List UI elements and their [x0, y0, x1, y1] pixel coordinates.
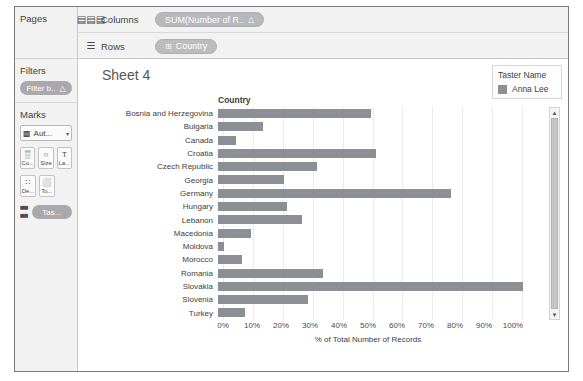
columns-pill-label: SUM(Number of R..: [165, 15, 244, 25]
left-rail: Pages Filters Filter b.. △ Marks ▩ Aut..…: [15, 7, 78, 371]
taster-name-pill-label: Tas...: [42, 208, 61, 217]
y-axis-label: Slovakia: [102, 282, 218, 291]
detail-button[interactable]: ∷ De...: [20, 175, 36, 197]
bar[interactable]: [218, 189, 451, 198]
color-button[interactable]: ▒ Co...: [20, 147, 35, 169]
legend-title: Taster Name: [498, 70, 556, 80]
scroll-up-icon[interactable]: ▲: [550, 108, 559, 117]
chart-row: Czech Republic: [102, 160, 537, 173]
tableau-window: Pages Filters Filter b.. △ Marks ▩ Aut..…: [14, 6, 569, 372]
y-axis-label: Croatia: [102, 149, 218, 158]
columns-shelf[interactable]: ▤▤▤ Columns SUM(Number of R.. △: [78, 7, 568, 33]
bar[interactable]: [218, 149, 376, 158]
label-button[interactable]: T La...: [57, 147, 72, 169]
bar-track: [218, 200, 537, 213]
columns-shelf-label: Columns: [101, 14, 155, 25]
chart-vertical-scrollbar[interactable]: ▲ ▼: [549, 107, 560, 320]
bar[interactable]: [218, 229, 251, 238]
columns-icon: ▤▤▤: [84, 15, 98, 25]
bar-rows: Bosnia and HerzegovinaBulgariaCanadaCroa…: [102, 107, 537, 320]
y-axis-label: Czech Republic: [102, 162, 218, 171]
bar-track: [218, 187, 537, 200]
marks-title: Marks: [20, 109, 72, 120]
y-axis-label: Bulgaria: [102, 122, 218, 131]
x-tick-label: 10%: [244, 321, 260, 330]
rows-shelf-label: Rows: [101, 41, 155, 52]
y-axis-label: Canada: [102, 136, 218, 145]
chart-row: Macedonia: [102, 227, 537, 240]
row-field-header: Country: [218, 95, 251, 105]
detail-dots-icon: ■■■■: [20, 204, 28, 220]
bar-track: [218, 134, 537, 147]
rows-pill[interactable]: ⊞ Country: [155, 39, 217, 54]
y-axis-label: Hungary: [102, 202, 218, 211]
y-axis-label: Morocco: [102, 255, 218, 264]
y-axis-label: Bosnia and Herzegovina: [102, 109, 218, 118]
color-legend: Taster Name Anna Lee: [492, 65, 562, 99]
filters-title: Filters: [20, 65, 72, 76]
rows-shelf[interactable]: ☰ Rows ⊞ Country: [78, 33, 568, 59]
x-tick-label: 20%: [273, 321, 289, 330]
mark-type-selector[interactable]: ▩ Aut... ▾: [20, 125, 72, 141]
filters-card: Filters Filter b.. △: [15, 59, 77, 103]
bar[interactable]: [218, 109, 371, 118]
x-tick-label: 100%: [503, 321, 523, 330]
taster-name-pill[interactable]: Tas...: [32, 205, 72, 219]
color-icon: ▒: [25, 150, 31, 159]
tooltip-button[interactable]: ⬜ To...: [39, 175, 55, 197]
bar[interactable]: [218, 242, 224, 251]
bar[interactable]: [218, 215, 302, 224]
legend-item-label: Anna Lee: [512, 84, 548, 94]
chart-row: Bulgaria: [102, 120, 537, 133]
chart-row: Morocco: [102, 253, 537, 266]
chart-row: Moldova: [102, 240, 537, 253]
chart-row: Hungary: [102, 200, 537, 213]
chart-row: Canada: [102, 134, 537, 147]
bar[interactable]: [218, 308, 245, 317]
hierarchy-icon: ⊞: [165, 42, 172, 51]
bar-track: [218, 213, 537, 226]
size-button-label: Size: [40, 160, 52, 167]
bar-track: [218, 120, 537, 133]
y-axis-label: Georgia: [102, 176, 218, 185]
x-tick-label: 40%: [331, 321, 347, 330]
chart-row: Romania: [102, 267, 537, 280]
bar[interactable]: [218, 255, 242, 264]
bar-track: [218, 147, 537, 160]
filter-pill-label: Filter b..: [26, 84, 55, 93]
mark-type-label: Aut...: [34, 129, 53, 138]
x-tick-label: 80%: [447, 321, 463, 330]
legend-swatch: [498, 85, 507, 94]
tooltip-icon: ⬜: [42, 178, 52, 187]
chart-row: Turkey: [102, 306, 537, 319]
bar-track: [218, 267, 537, 280]
y-axis-label: Lebanon: [102, 216, 218, 225]
filter-pill[interactable]: Filter b.. △: [20, 81, 72, 95]
size-button[interactable]: ○ Size: [38, 147, 53, 169]
chart-row: Lebanon: [102, 213, 537, 226]
bar[interactable]: [218, 175, 284, 184]
bar[interactable]: [218, 202, 287, 211]
legend-item[interactable]: Anna Lee: [498, 84, 556, 94]
bar[interactable]: [218, 162, 317, 171]
y-axis-label: Romania: [102, 269, 218, 278]
rows-pill-label: Country: [176, 41, 208, 51]
bar[interactable]: [218, 282, 523, 291]
bar-track: [218, 160, 537, 173]
marks-button-row-1: ▒ Co... ○ Size T La...: [20, 147, 72, 169]
scrollbar-thumb[interactable]: [551, 118, 558, 309]
bar[interactable]: [218, 295, 308, 304]
color-button-label: Co...: [21, 160, 34, 167]
bar[interactable]: [218, 122, 263, 131]
bar[interactable]: [218, 269, 323, 278]
bar[interactable]: [218, 136, 236, 145]
scroll-down-icon[interactable]: ▼: [550, 310, 559, 319]
chart-row: Georgia: [102, 173, 537, 186]
chart-row: Croatia: [102, 147, 537, 160]
x-tick-label: 30%: [302, 321, 318, 330]
shelves-area: ▤▤▤ Columns SUM(Number of R.. △ ☰ Rows ⊞…: [78, 7, 568, 59]
columns-pill[interactable]: SUM(Number of R.. △: [155, 12, 264, 27]
chevron-down-icon: ▾: [66, 130, 69, 137]
page-title: Sheet 4: [102, 67, 150, 83]
detail-button-label: De...: [22, 188, 35, 195]
